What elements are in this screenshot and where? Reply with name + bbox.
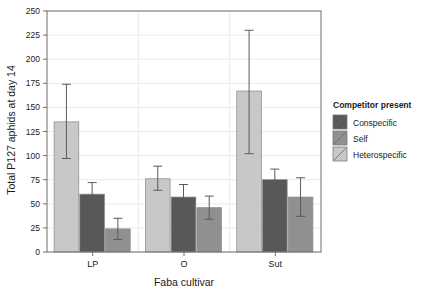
y-tick-label: 50 <box>31 199 41 209</box>
y-axis-title: Total P127 aphids at day 14 <box>5 65 17 195</box>
y-tick-label: 200 <box>26 54 40 64</box>
y-tick-label: 225 <box>26 30 40 40</box>
x-axis-title: Faba cultivar <box>154 276 215 288</box>
bar-chart: 0255075100125150175200225250 LPOSut Comp… <box>0 0 423 293</box>
x-tick-label-sut: Sut <box>269 259 283 269</box>
y-tick-label: 75 <box>31 175 41 185</box>
legend-label-heterospecific: Heterospecific <box>353 150 408 160</box>
y-tick-label: 125 <box>26 127 40 137</box>
y-tick-label: 175 <box>26 78 40 88</box>
y-tick-label: 0 <box>35 247 40 257</box>
x-tick-label-lp: LP <box>87 259 98 269</box>
y-tick-label: 150 <box>26 102 40 112</box>
legend-label-conspecific: Conspecific <box>353 118 398 128</box>
y-tick-label: 250 <box>26 6 40 16</box>
y-tick-label: 100 <box>26 151 40 161</box>
x-tick-label-o: O <box>180 259 187 269</box>
legend-item-heterospecific[interactable]: Heterospecific <box>333 147 408 161</box>
legend-label-self: Self <box>353 134 368 144</box>
legend-title: Competitor present <box>333 100 412 110</box>
chart-figure: 0255075100125150175200225250 LPOSut Comp… <box>0 0 423 293</box>
legend-item-conspecific[interactable]: Conspecific <box>333 115 398 129</box>
y-tick-label: 25 <box>31 223 41 233</box>
